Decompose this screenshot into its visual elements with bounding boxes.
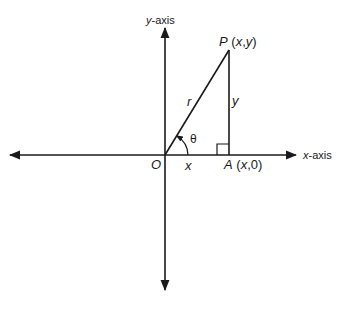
right-angle-marker [217,144,229,155]
hypotenuse-line [165,50,229,155]
point-a-label: A (x,0) [223,157,262,172]
x-axis-label: x-axis [302,149,332,161]
horizontal-side-label: x [184,158,192,173]
y-axis-label: y-axis [145,14,175,26]
origin-label: O [151,157,161,172]
angle-label: θ [190,132,197,146]
vertical-side-label: y [231,93,240,108]
coordinate-diagram: y-axis x-axis P (x,y) A (x,0) O r y x θ [0,0,340,314]
hypotenuse-label: r [187,94,192,109]
point-p-label: P (x,y) [219,34,257,49]
angle-arc-icon [177,136,188,155]
